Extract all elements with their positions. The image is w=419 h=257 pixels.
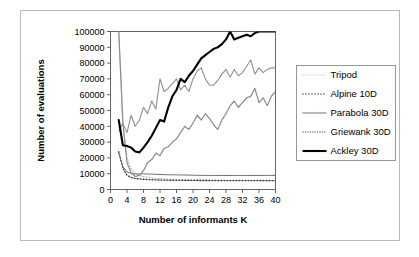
legend-label: Tripod: [331, 69, 358, 80]
y-tick-label: 50000: [79, 106, 104, 116]
chart-canvas: 0100002000030000400005000060000700008000…: [0, 0, 419, 257]
legend-label: Griewank 30D: [331, 126, 391, 137]
x-tick-label: 36: [254, 195, 264, 205]
x-tick-label: 4: [124, 195, 129, 205]
y-tick-label: 30000: [79, 137, 104, 147]
legend-label: Alpine 10D: [331, 88, 378, 99]
x-axis: 0481216202428323640Number of informants …: [108, 190, 281, 225]
x-tick-label: 24: [204, 195, 214, 205]
y-tick-label: 20000: [79, 153, 104, 163]
x-tick-label: 16: [171, 195, 181, 205]
x-tick-label: 20: [188, 195, 198, 205]
legend-label: Ackley 30D: [331, 145, 379, 156]
y-tick-label: 70000: [79, 74, 104, 84]
x-tick-label: 40: [270, 195, 280, 205]
legend: TripodAlpine 10DParabola 30DGriewank 30D…: [297, 66, 396, 161]
y-tick-label: 0: [99, 185, 104, 195]
x-tick-label: 32: [237, 195, 247, 205]
plot-area: [111, 32, 276, 190]
chart-figure: 0100002000030000400005000060000700008000…: [0, 0, 419, 257]
y-tick-label: 60000: [79, 90, 104, 100]
y-tick-label: 80000: [79, 58, 104, 68]
y-tick-label: 40000: [79, 122, 104, 132]
y-axis: 0100002000030000400005000060000700008000…: [35, 27, 111, 195]
legend-label: Parabola 30D: [331, 107, 389, 118]
y-tick-label: 100000: [74, 27, 104, 37]
y-axis-title: Number of evaluations: [35, 59, 46, 161]
plot-border: [111, 32, 276, 190]
x-axis-title: Number of informants K: [139, 214, 248, 225]
y-tick-label: 90000: [79, 43, 104, 53]
y-tick-label: 10000: [79, 169, 104, 179]
x-tick-label: 28: [221, 195, 231, 205]
x-tick-label: 8: [141, 195, 146, 205]
x-tick-label: 12: [155, 195, 165, 205]
x-tick-label: 0: [108, 195, 113, 205]
